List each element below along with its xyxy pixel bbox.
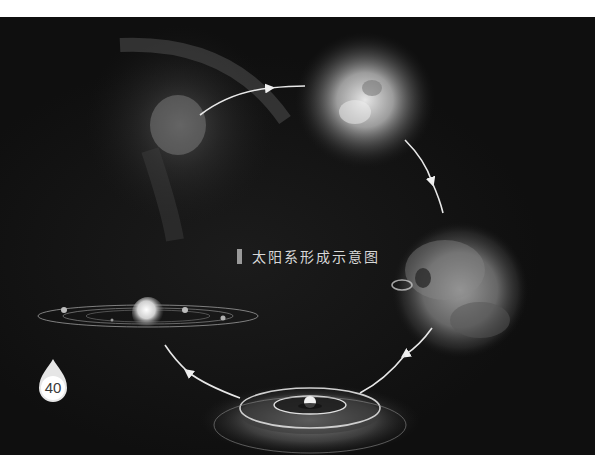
nebula-stage-image [85, 25, 285, 240]
figure-caption: 太阳系形成示意图 [237, 246, 380, 266]
caption-marker-bar [237, 249, 242, 264]
page-number-badge: 40 [38, 357, 68, 405]
arrow-disk-to-solar-system [188, 372, 240, 398]
solar-system-formation-illustration [0, 17, 595, 455]
page-top-strip [0, 0, 595, 17]
caption-text: 太阳系形成示意图 [252, 246, 380, 266]
page-number: 40 [38, 377, 68, 399]
illustration-background [0, 17, 595, 455]
collapsing-cloud-stage-image [295, 32, 435, 168]
protostar-cloud-stage-image [392, 222, 528, 358]
solar-system-stage-image [38, 297, 258, 329]
